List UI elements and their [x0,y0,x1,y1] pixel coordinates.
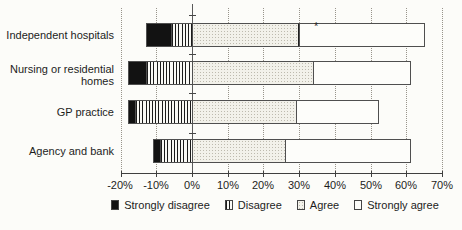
bar-segment-strongly-disagree [146,23,172,47]
bar-segment-disagree [171,23,193,47]
category-label-agency-and-bank: Agency and bank [0,138,114,164]
bar-segment-agree [192,100,297,124]
strongly-disagree-swatch-icon [111,200,119,210]
x-tick-label: 70% [422,179,462,191]
x-tick-label: -20% [100,179,140,191]
x-axis-tick [156,171,157,177]
x-axis-line [121,173,444,174]
x-tick-label: 60% [386,179,426,191]
bar-segment-disagree [146,61,193,85]
category-boundary-tick [189,54,196,55]
bar-segment-agree [192,23,300,47]
x-tick-label: 50% [351,179,391,191]
legend-item-strongly-agree: Strongly agree [354,199,439,211]
legend: Strongly disagree Disagree Agree Strongl… [88,199,462,211]
x-axis-tick [192,171,193,177]
category-boundary-tick [189,133,196,134]
legend-item-strongly-disagree: Strongly disagree [111,199,210,211]
x-tick-label: 20% [243,179,283,191]
category-boundary-tick [189,15,196,16]
legend-label: Agree [310,199,339,211]
legend-item-agree: Agree [297,199,339,211]
x-axis-tick [121,171,122,177]
gridline [442,8,443,173]
category-label-gp-practice: GP practice [0,99,114,125]
agree-swatch-icon [297,200,305,210]
gridline [121,8,122,173]
category-label-nursing-residential-homes: Nursing or residential homes [0,62,114,88]
legend-item-disagree: Disagree [225,199,282,211]
bar-segment-strongly-agree [296,100,379,124]
legend-label: Strongly disagree [124,199,210,211]
stacked-bar-chart-figure: Independent hospitals Nursing or residen… [0,0,462,230]
bar-segment-agree [192,61,314,85]
x-axis-tick [263,171,264,177]
x-tick-label: 40% [315,179,355,191]
x-axis-tick [406,171,407,177]
x-axis-tick [442,171,443,177]
x-tick-label: 10% [208,179,248,191]
x-tick-label: 30% [279,179,319,191]
x-axis-tick [371,171,372,177]
x-tick-label: 0% [172,179,212,191]
category-boundary-tick [189,93,196,94]
bar-segment-strongly-agree [285,139,411,163]
bar-segment-disagree [135,100,193,124]
x-axis-tick [228,171,229,177]
x-axis-tick [299,171,300,177]
legend-label: Disagree [238,199,282,211]
legend-label: Strongly agree [367,199,439,211]
x-axis-tick [335,171,336,177]
footnote-asterisk: * [314,20,318,32]
strongly-agree-swatch-icon [354,200,362,210]
bar-segment-disagree [160,139,193,163]
x-tick-label: -10% [136,179,176,191]
bar-segment-agree [192,139,286,163]
bar-segment-strongly-disagree [128,61,147,85]
category-label-independent-hospitals: Independent hospitals [0,22,114,48]
bar-segment-strongly-agree [313,61,410,85]
disagree-swatch-icon [225,200,233,210]
